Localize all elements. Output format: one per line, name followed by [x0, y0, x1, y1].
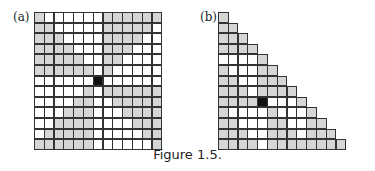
- grid-row: [34, 33, 161, 44]
- grid-row: [218, 23, 345, 34]
- grid-row: [34, 23, 161, 34]
- shaded-cell: [306, 107, 317, 118]
- grid-row: [218, 129, 345, 140]
- grid-row: [34, 86, 161, 97]
- shaded-cell: [152, 97, 163, 108]
- grid-row: [218, 54, 345, 65]
- shaded-cell: [277, 76, 288, 87]
- grid-row: [34, 76, 161, 87]
- grid-row: [34, 12, 161, 23]
- empty-cell: [152, 23, 163, 34]
- panel-b-label: (b): [200, 10, 217, 24]
- shaded-cell: [228, 23, 239, 34]
- shaded-cell: [152, 86, 163, 97]
- empty-cell: [152, 65, 163, 76]
- shaded-cell: [152, 12, 163, 23]
- grid-row: [34, 54, 161, 65]
- grid-row: [218, 118, 345, 129]
- shaded-cell: [296, 97, 307, 108]
- panel-b-grid: [218, 12, 345, 150]
- shaded-cell: [238, 33, 249, 44]
- grid-row: [34, 65, 161, 76]
- grid-row: [34, 129, 161, 140]
- panel-a-label: (a): [13, 10, 30, 24]
- grid-row: [218, 107, 345, 118]
- shaded-cell: [218, 12, 229, 23]
- grid-row: [218, 86, 345, 97]
- grid-row: [218, 97, 345, 108]
- grid-row: [218, 65, 345, 76]
- grid-row: [34, 97, 161, 108]
- grid-row: [34, 107, 161, 118]
- shaded-cell: [316, 118, 327, 129]
- shaded-cell: [152, 129, 163, 140]
- grid-row: [218, 76, 345, 87]
- panel-a-grid: [34, 12, 161, 150]
- grid-row: [218, 33, 345, 44]
- grid-row: [218, 44, 345, 55]
- empty-cell: [152, 44, 163, 55]
- shaded-cell: [257, 54, 268, 65]
- empty-cell: [152, 76, 163, 87]
- shaded-cell: [326, 129, 337, 140]
- grid-row: [34, 118, 161, 129]
- grid-row: [218, 12, 345, 23]
- shaded-cell: [267, 65, 278, 76]
- empty-cell: [152, 33, 163, 44]
- shaded-cell: [247, 44, 258, 55]
- empty-cell: [152, 54, 163, 65]
- figure-caption: Figure 1.5.: [0, 147, 375, 162]
- shaded-cell: [287, 86, 298, 97]
- grid-row: [34, 44, 161, 55]
- shaded-cell: [152, 107, 163, 118]
- shaded-cell: [152, 118, 163, 129]
